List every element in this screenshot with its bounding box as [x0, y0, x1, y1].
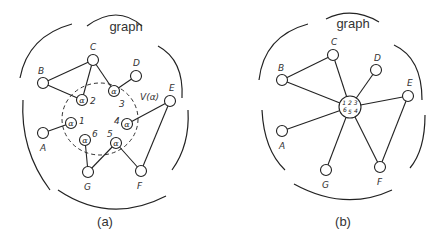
svg-text:C: C	[331, 37, 338, 47]
svg-text:F: F	[377, 177, 383, 187]
node-a-F: F	[136, 166, 147, 192]
node-a-E: E	[165, 83, 176, 107]
panel-b: graph B C D E A	[259, 13, 425, 229]
svg-text:4: 4	[114, 116, 120, 126]
node-b-D: D	[371, 53, 382, 76]
svg-text:3: 3	[119, 99, 125, 109]
svg-text:6: 6	[343, 106, 347, 113]
panel-a: graph V(α) C B D	[20, 15, 188, 229]
svg-text:B: B	[38, 66, 44, 76]
outer-arc-right-b	[410, 115, 425, 168]
diagram-canvas: graph V(α) C B D	[0, 0, 442, 242]
svg-text:6: 6	[92, 129, 98, 139]
outer-arc-bottom	[58, 190, 166, 209]
alpha-node-6: α 6	[80, 129, 99, 146]
svg-text:G: G	[84, 182, 91, 192]
svg-text:α: α	[82, 136, 88, 145]
svg-text:5: 5	[107, 129, 113, 139]
node-b-F: F	[375, 162, 386, 188]
svg-text:G: G	[322, 180, 329, 190]
alpha-node-2: α 2	[77, 95, 97, 107]
svg-text:A: A	[39, 143, 46, 153]
node-a-B: B	[38, 66, 49, 89]
svg-text:A: A	[278, 141, 285, 151]
v-alpha-label: V(α)	[140, 92, 159, 102]
svg-text:1 2 3: 1 2 3	[342, 99, 357, 106]
node-a-G: G	[83, 167, 94, 193]
node-b-G: G	[321, 165, 332, 191]
outer-arc-right	[172, 110, 188, 170]
outer-arc-left-b	[262, 110, 285, 170]
svg-text:E: E	[169, 83, 175, 93]
svg-text:B: B	[278, 63, 284, 73]
graph-title-b: graph	[336, 16, 369, 31]
svg-text:4: 4	[354, 107, 358, 114]
svg-text:2: 2	[90, 96, 96, 106]
node-b-E: E	[403, 78, 414, 102]
outer-arc-top-left	[20, 24, 72, 78]
svg-text:5: 5	[348, 108, 352, 115]
svg-text:D: D	[133, 58, 140, 68]
alpha-node-1: α 1	[66, 116, 85, 129]
svg-text:1: 1	[79, 116, 85, 126]
svg-text:α: α	[111, 87, 117, 96]
alpha-node-3: α 3	[109, 86, 126, 110]
graph-title-a: graph	[109, 19, 142, 34]
svg-text:C: C	[90, 42, 97, 52]
alpha-node-5: α 5	[107, 129, 122, 149]
node-b-A: A	[277, 126, 288, 152]
caption-a: (a)	[97, 214, 113, 229]
caption-b: (b)	[335, 214, 351, 229]
node-a-A: A	[38, 128, 49, 154]
svg-text:α: α	[124, 120, 130, 129]
node-b-C: C	[328, 37, 339, 61]
node-b-B: B	[277, 63, 288, 86]
node-a-D: D	[131, 58, 142, 82]
svg-text:α: α	[79, 96, 85, 105]
alpha-node-4: α 4	[114, 116, 133, 130]
svg-text:α: α	[68, 119, 74, 128]
node-a-C: C	[88, 42, 99, 66]
svg-text:D: D	[374, 53, 381, 63]
svg-text:α: α	[113, 139, 119, 148]
svg-text:F: F	[137, 181, 143, 191]
supernode: 1 2 3 6 5 4	[339, 96, 361, 118]
svg-text:E: E	[407, 78, 413, 88]
